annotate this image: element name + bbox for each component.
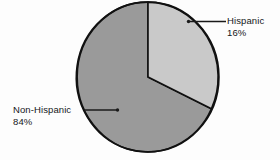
hispanic-label-name: Hispanic (227, 15, 264, 26)
pie-chart-figure: Hispanic 16% Non-Hispanic 84% (0, 0, 280, 160)
non-hispanic-leader-dot (116, 108, 119, 111)
hispanic-label: Hispanic 16% (227, 15, 264, 38)
hispanic-label-percent: 16% (227, 27, 264, 39)
hispanic-leader-dot (187, 20, 190, 23)
non-hispanic-label-name: Non-Hispanic (13, 104, 71, 115)
non-hispanic-label-percent: 84% (13, 116, 71, 128)
non-hispanic-label: Non-Hispanic 84% (13, 104, 71, 127)
